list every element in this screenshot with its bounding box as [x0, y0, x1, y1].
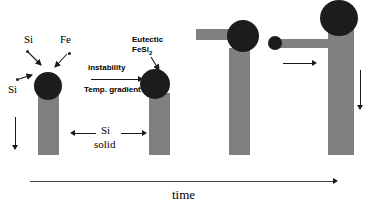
si-left-label: Si [8, 84, 17, 96]
eutectic-droplet-stage-3 [227, 20, 259, 52]
temp-gradient-label: Temp. gradient [84, 86, 141, 94]
si-solid-arrow-right-head [142, 130, 147, 136]
eutectic-formula-base: FeSi [132, 45, 149, 54]
silicon-column-stage-3 [229, 48, 250, 155]
growth-direction-arrow-left-head [12, 145, 18, 150]
si-solid-label-line1: Si [101, 125, 110, 137]
fesi2-growth-schematic: Si Fe Si instability Temp. gradient Eute… [0, 0, 380, 206]
growth-direction-arrow-right-head [357, 105, 363, 110]
eutectic-label-line2: FeSi2 [132, 46, 152, 56]
eutectic-droplet-stage-4 [320, 0, 358, 36]
feed-arrow-group [0, 0, 380, 206]
si-solid-arrow-left-head [70, 130, 75, 136]
arm-tip-droplet-stage-4 [268, 36, 282, 50]
eutectic-droplet-stage-2 [140, 69, 170, 99]
si-top-feed-arrow [28, 52, 41, 65]
time-axis-head [333, 178, 338, 184]
fe-top-feed-arrow [55, 54, 67, 67]
si-solid-label-line2: solid [94, 139, 115, 151]
arm-motion-arrow-shaft [283, 63, 313, 64]
growth-direction-arrow-right-shaft [360, 70, 361, 107]
eutectic-formula-subscript: 2 [149, 50, 152, 56]
fe-top-label: Fe [60, 34, 71, 46]
silicon-column-stage-2 [149, 93, 170, 155]
instability-arrow-shaft [91, 79, 139, 80]
si-left-feed-arrow [19, 75, 32, 79]
time-axis-label: time [172, 188, 195, 202]
instability-label: instability [88, 64, 125, 72]
si-solid-arrow-right-shaft [121, 133, 143, 134]
time-axis-shaft [30, 181, 335, 182]
arm-motion-arrow-head [312, 60, 317, 66]
si-solid-arrow-left-shaft [74, 133, 96, 134]
growth-direction-arrow-left-shaft [15, 117, 16, 147]
si-top-label: Si [24, 34, 33, 46]
eutectic-label-line1: Eutectic [132, 36, 163, 44]
